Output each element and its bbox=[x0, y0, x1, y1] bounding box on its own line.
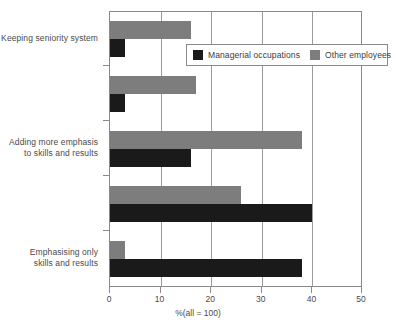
bar-managerial-occupations-3 bbox=[110, 149, 191, 167]
bar-other-employees-4 bbox=[110, 186, 241, 204]
bar-group-4 bbox=[110, 186, 361, 222]
ytick-2 bbox=[103, 120, 110, 121]
x-axis-title: %(all = 100) bbox=[0, 308, 396, 318]
bar-group-2 bbox=[110, 76, 361, 112]
bar-other-employees-1 bbox=[110, 21, 191, 39]
category-label-1: Keeping seniority system bbox=[0, 33, 98, 44]
category-label-5-line-2: skills and results bbox=[0, 258, 98, 269]
category-label-3-line-2: to skills and results bbox=[0, 148, 98, 159]
xtick-label-20: 20 bbox=[190, 294, 230, 304]
category-label-3-line-1: Adding more emphasis bbox=[0, 137, 98, 148]
legend-label-managerial-occupations: Managerial occupations bbox=[208, 50, 300, 60]
category-label-3: Adding more emphasis to skills and resul… bbox=[0, 137, 98, 159]
ytick-1 bbox=[103, 65, 110, 66]
xtick-label-50: 50 bbox=[341, 294, 381, 304]
bar-other-employees-2 bbox=[110, 76, 196, 94]
bar-chart: Keeping seniority system Adding more emp… bbox=[0, 0, 396, 326]
xtick-10 bbox=[160, 287, 161, 293]
bar-managerial-occupations-1 bbox=[110, 39, 125, 57]
legend-label-other-employees: Other employees bbox=[325, 50, 391, 60]
bar-other-employees-3 bbox=[110, 131, 302, 149]
xtick-label-0: 0 bbox=[89, 294, 129, 304]
bar-group-5 bbox=[110, 241, 361, 277]
legend-item-other-employees: Other employees bbox=[310, 50, 391, 60]
xtick-30 bbox=[261, 287, 262, 293]
xtick-40 bbox=[311, 287, 312, 293]
category-label-5-line-1: Emphasising only bbox=[0, 247, 98, 258]
chart-legend: Managerial occupations Other employees bbox=[186, 44, 388, 66]
legend-item-managerial-occupations: Managerial occupations bbox=[193, 50, 300, 60]
xtick-label-30: 30 bbox=[241, 294, 281, 304]
bar-managerial-occupations-4 bbox=[110, 204, 312, 222]
ytick-4 bbox=[103, 230, 110, 231]
legend-swatch-other-icon bbox=[310, 50, 320, 60]
bar-group-3 bbox=[110, 131, 361, 167]
ytick-3 bbox=[103, 175, 110, 176]
xtick-20 bbox=[210, 287, 211, 293]
category-label-5: Emphasising only skills and results bbox=[0, 247, 98, 269]
legend-swatch-managerial-icon bbox=[193, 50, 203, 60]
xtick-label-40: 40 bbox=[291, 294, 331, 304]
bar-managerial-occupations-5 bbox=[110, 259, 302, 277]
bar-other-employees-5 bbox=[110, 241, 125, 259]
xtick-label-10: 10 bbox=[140, 294, 180, 304]
bar-managerial-occupations-2 bbox=[110, 94, 125, 112]
xtick-0 bbox=[109, 287, 110, 293]
category-label-1-line-1: Keeping seniority system bbox=[0, 33, 98, 44]
xtick-50 bbox=[361, 287, 362, 293]
